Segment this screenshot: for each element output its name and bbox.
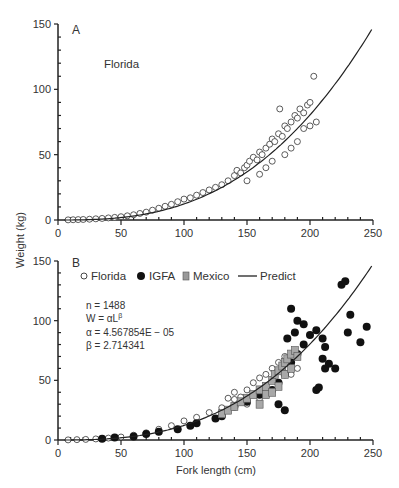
mexico-point <box>269 388 276 396</box>
florida-point <box>257 171 263 177</box>
igfa-point <box>287 305 295 313</box>
x-axis-title: Fork length (cm) <box>176 464 256 476</box>
legend-igfa-marker <box>137 272 145 280</box>
x-tick-label: 50 <box>115 227 127 239</box>
y-tick-label: 50 <box>39 374 51 386</box>
igfa-point <box>319 355 327 363</box>
florida-point <box>250 380 256 386</box>
x-tick-label: 150 <box>238 447 256 459</box>
panel-b: B Florida IGFA Mexico Predict n = 1488 W… <box>33 255 383 459</box>
igfa-point <box>321 343 329 351</box>
florida-point <box>277 106 283 112</box>
igfa-point <box>312 326 320 334</box>
igfa-point <box>281 406 289 414</box>
florida-point <box>294 139 300 145</box>
y-tick-label: 100 <box>33 83 51 95</box>
mexico-point <box>281 370 288 378</box>
panel-a-label: A <box>72 23 80 37</box>
x-tick-label: 250 <box>364 447 382 459</box>
length-weight-chart: A Florida 050100150050100150200250 Weigh… <box>0 0 399 488</box>
florida-point <box>231 389 237 395</box>
igfa-point <box>356 338 364 346</box>
florida-point <box>307 123 313 129</box>
mexico-point <box>275 382 282 390</box>
florida-point <box>269 158 275 164</box>
legend-predict-label: Predict <box>260 270 297 282</box>
igfa-point <box>319 335 327 343</box>
florida-point <box>168 423 174 429</box>
florida-point <box>279 133 285 139</box>
legend: Florida IGFA Mexico Predict <box>81 270 297 282</box>
igfa-point <box>341 277 349 285</box>
florida-point <box>181 418 187 424</box>
florida-point <box>259 152 265 158</box>
y-tick-label: 50 <box>39 149 51 161</box>
igfa-point <box>306 331 314 339</box>
mexico-point <box>262 391 269 399</box>
panel-b-label: B <box>72 256 80 270</box>
y-tick-label: 0 <box>45 214 51 226</box>
florida-point <box>187 195 193 201</box>
x-tick-label: 250 <box>364 227 382 239</box>
florida-point <box>257 375 263 381</box>
x-tick-label: 150 <box>238 227 256 239</box>
annotation-beta: β = 2.714341 <box>86 340 145 351</box>
florida-point <box>244 178 250 184</box>
annotation-alpha: α = 4.567854E − 05 <box>86 327 175 338</box>
florida-point <box>162 203 168 209</box>
panel-a-region-label: Florida <box>104 58 140 70</box>
x-tick-label: 0 <box>55 227 61 239</box>
y-tick-label: 0 <box>45 434 51 446</box>
igfa-point <box>315 383 323 391</box>
florida-point <box>301 126 307 132</box>
igfa-point <box>283 335 291 343</box>
florida-point <box>194 192 200 198</box>
igfa-point <box>363 323 371 331</box>
igfa-point <box>291 329 299 337</box>
igfa-point <box>300 320 308 328</box>
y-tick-label: 150 <box>33 18 51 30</box>
florida-point <box>254 157 260 163</box>
florida-point <box>263 165 269 171</box>
panel-a-axes: 050100150050100150200250 <box>33 18 383 239</box>
florida-point <box>313 119 319 125</box>
florida-point <box>307 99 313 105</box>
x-tick-label: 100 <box>175 447 193 459</box>
igfa-point <box>331 364 339 372</box>
y-tick-label: 150 <box>33 255 51 267</box>
florida-point <box>284 126 290 132</box>
florida-point <box>244 387 250 393</box>
florida-point <box>124 213 130 219</box>
florida-point <box>168 201 174 207</box>
annotation-model: W = αLβ <box>86 312 122 324</box>
panel-a: A Florida 050100150050100150200250 <box>33 18 383 239</box>
y-tick-label: 100 <box>33 315 51 327</box>
igfa-point <box>346 311 354 319</box>
florida-point <box>206 187 212 193</box>
igfa-point <box>344 329 352 337</box>
x-tick-label: 0 <box>55 447 61 459</box>
legend-mexico-label: Mexico <box>193 270 229 282</box>
legend-florida-marker <box>81 273 87 279</box>
mexico-point <box>288 364 295 372</box>
x-tick-label: 200 <box>301 447 319 459</box>
florida-point <box>294 115 300 121</box>
florida-point <box>225 395 231 401</box>
florida-point <box>175 199 181 205</box>
florida-point <box>294 365 300 371</box>
florida-point <box>263 371 269 377</box>
florida-point <box>200 190 206 196</box>
florida-point <box>181 196 187 202</box>
panel-b-axes: 050100150050100150200250 <box>33 255 383 459</box>
florida-point <box>105 215 111 221</box>
model-annotation: n = 1488 W = αLβ α = 4.567854E − 05 β = … <box>86 300 175 351</box>
legend-igfa-label: IGFA <box>149 270 176 282</box>
y-axis-title: Weight (kg) <box>14 212 26 268</box>
florida-point <box>288 119 294 125</box>
igfa-point <box>325 360 333 368</box>
mexico-point <box>256 400 263 408</box>
florida-point <box>301 110 307 116</box>
legend-florida-label: Florida <box>91 270 127 282</box>
legend-mexico-marker <box>183 272 189 280</box>
florida-point <box>288 145 294 151</box>
